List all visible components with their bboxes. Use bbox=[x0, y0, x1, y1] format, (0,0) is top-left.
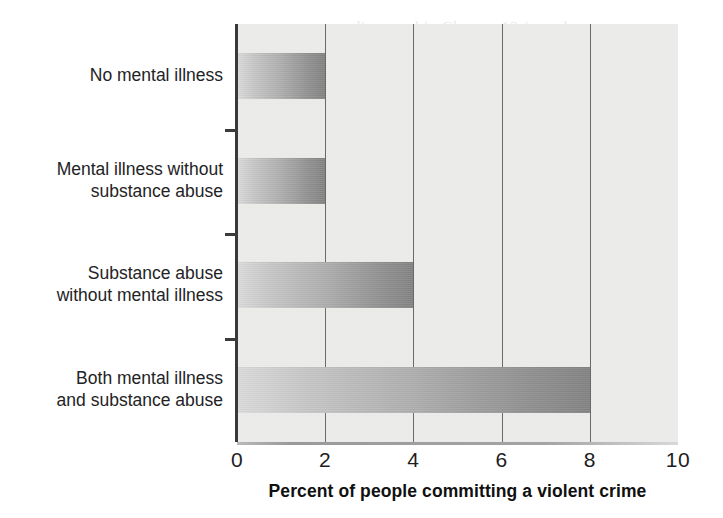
bar-2 bbox=[237, 262, 413, 308]
plot-area bbox=[237, 24, 678, 442]
bar-3 bbox=[237, 367, 590, 413]
x-tick-label-4: 4 bbox=[407, 448, 419, 472]
bar-chart-figure: No mental illnessMental illness without … bbox=[0, 0, 723, 518]
gridline-8 bbox=[590, 24, 591, 442]
x-tick-label-6: 6 bbox=[496, 448, 508, 472]
category-label-0: No mental illness bbox=[18, 64, 223, 86]
x-tick-label-2: 2 bbox=[319, 448, 331, 472]
category-label-2: Substance abuse without mental illness bbox=[18, 262, 223, 306]
x-tick-label-0: 0 bbox=[231, 448, 243, 472]
x-tick-label-8: 8 bbox=[584, 448, 596, 472]
y-axis-tick-1 bbox=[225, 129, 238, 132]
bar-1 bbox=[237, 158, 325, 204]
y-axis-tick-2 bbox=[225, 233, 238, 236]
category-label-1: Mental illness without substance abuse bbox=[18, 158, 223, 202]
x-tick-label-10: 10 bbox=[666, 448, 690, 472]
bar-0 bbox=[237, 53, 325, 99]
x-axis-title: Percent of people committing a violent c… bbox=[237, 481, 678, 502]
category-label-3: Both mental illness and substance abuse bbox=[18, 367, 223, 411]
y-axis-tick-3 bbox=[225, 338, 238, 341]
category-labels-group: No mental illnessMental illness without … bbox=[18, 24, 223, 442]
x-axis-line bbox=[237, 442, 678, 445]
